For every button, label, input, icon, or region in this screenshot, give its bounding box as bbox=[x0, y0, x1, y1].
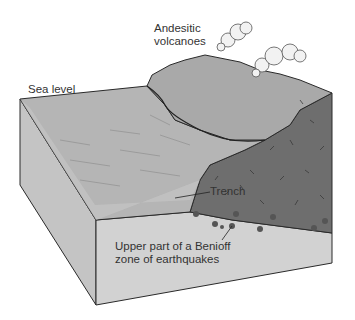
label-volcanoes: volcanoes bbox=[154, 35, 206, 48]
label-andesitic: Andesitic bbox=[154, 22, 201, 35]
block-diagram bbox=[0, 0, 355, 320]
label-benioff-2: zone of earthquakes bbox=[115, 253, 219, 266]
volcano-plume-1 bbox=[217, 22, 252, 51]
volcano-plume-2 bbox=[252, 44, 306, 77]
label-benioff-1: Upper part of a Benioff bbox=[115, 240, 231, 253]
label-trench: Trench bbox=[210, 185, 245, 198]
label-sea-level: Sea level bbox=[28, 83, 75, 96]
